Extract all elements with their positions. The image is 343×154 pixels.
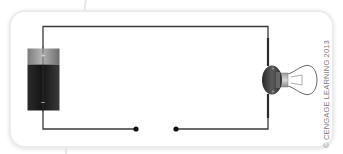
wire-top bbox=[43, 27, 268, 66]
circuit-diagram: + − bbox=[0, 0, 343, 154]
socket-screw-bottom bbox=[272, 90, 274, 92]
socket-neck bbox=[276, 72, 280, 88]
socket-screw-top bbox=[272, 67, 274, 69]
battery-positive-symbol: + bbox=[41, 51, 46, 60]
wire-bottom-right bbox=[176, 95, 268, 129]
copyright-credit: © CENGAGE LEARNING 2013 bbox=[322, 40, 331, 148]
wires bbox=[43, 27, 268, 130]
bulb-glass-icon bbox=[286, 65, 317, 94]
switch-contact-left bbox=[133, 126, 138, 131]
switch-contact-right bbox=[173, 126, 178, 131]
light-bulb bbox=[262, 65, 317, 94]
open-switch bbox=[133, 126, 178, 131]
battery-negative-symbol: − bbox=[41, 98, 46, 107]
wire-bottom-left bbox=[43, 110, 136, 129]
